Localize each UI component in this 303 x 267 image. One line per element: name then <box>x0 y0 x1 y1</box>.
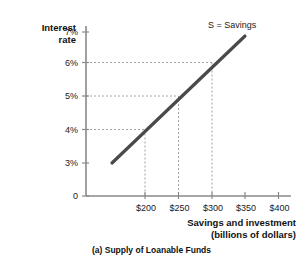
x-axis-title-line1: Savings and investment <box>128 217 296 229</box>
x-tick-label-400: $400 <box>269 203 289 213</box>
y-tick-label-5: 5% <box>65 91 78 101</box>
x-tick-label-300: $300 <box>203 203 223 213</box>
y-axis-title-line1: Interest <box>8 22 76 34</box>
supply-curve-savings <box>112 36 245 163</box>
y-axis-title-line2: rate <box>8 34 76 46</box>
x-tick-label-200: $200 <box>136 203 156 213</box>
y-axis-tick-labels: 7% 6% 5% 4% 3% 0 <box>65 27 78 201</box>
series-label-savings: S = Savings <box>208 20 256 30</box>
x-axis-title-line2: (billions of dollars) <box>128 229 296 241</box>
x-axis-title: Savings and investment (billions of doll… <box>128 217 296 241</box>
y-tick-label-3: 3% <box>65 158 78 168</box>
axes <box>86 26 291 196</box>
y-tick-label-4: 4% <box>65 125 78 135</box>
x-tick-label-350: $350 <box>236 203 256 213</box>
figure-supply-of-loanable-funds: 7% 6% 5% 4% 3% 0 $200 $250 $300 $350 $40… <box>0 0 303 267</box>
y-tick-label-6: 6% <box>65 58 78 68</box>
y-tick-label-0: 0 <box>73 191 78 201</box>
x-tick-label-250: $250 <box>169 203 189 213</box>
x-axis-tick-labels: $200 $250 $300 $350 $400 <box>136 203 290 213</box>
figure-caption: (a) Supply of Loanable Funds <box>0 245 303 255</box>
y-axis-title: Interest rate <box>8 22 76 46</box>
